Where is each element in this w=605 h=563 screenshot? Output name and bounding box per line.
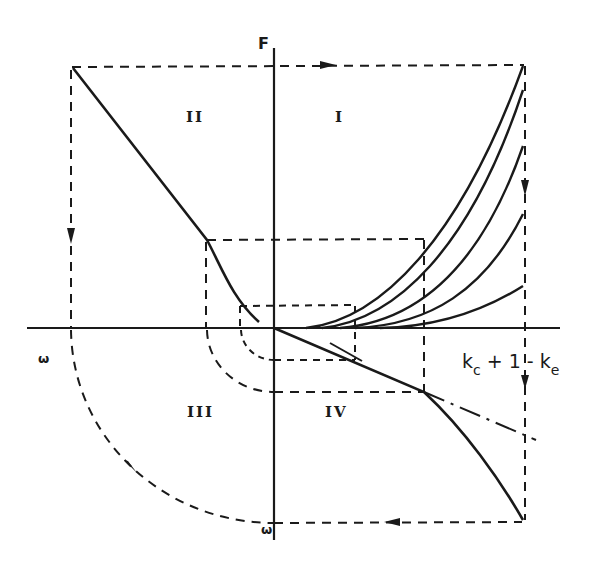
arrow-down-left-icon (67, 228, 75, 244)
k-c-symbol: k (462, 350, 473, 372)
middle-arc (207, 330, 274, 392)
outer-arc (71, 330, 274, 523)
arrow-down-right-lower-icon (521, 375, 529, 389)
quadrant-i-curves (306, 66, 523, 328)
four-quadrant-diagram (0, 0, 605, 563)
k-c-subscript: c (473, 362, 481, 378)
quadrant-iv-label: IV (325, 405, 348, 420)
construction-lines (71, 65, 525, 523)
transfer-arcs (71, 330, 274, 523)
small-upper-dashed-line (240, 305, 355, 306)
omega-bottom-label: ω (261, 523, 272, 536)
curve-4 (355, 214, 523, 328)
quadrant-ii-curve (73, 68, 259, 322)
plus-one-minus: + 1 - (481, 350, 540, 372)
mid-upper-dashed-line (207, 239, 424, 240)
arrow-left-bottom-icon (384, 518, 400, 526)
quadrant-i-label: I (335, 110, 344, 125)
arrow-right-top-icon (320, 61, 336, 69)
horizontal-axis-label: kc + 1 - ke (462, 352, 559, 371)
curve-1 (306, 66, 523, 328)
inner-arc (241, 330, 274, 360)
arrow-down-right-icon (521, 180, 529, 196)
curve-2 (322, 90, 523, 328)
vertical-axis-label: F (258, 36, 269, 52)
axes (27, 48, 560, 540)
quadrant-iv-dash-dot-line (424, 392, 536, 440)
k-e-subscript: e (551, 362, 560, 378)
quadrant-ii-label: II (186, 110, 204, 125)
omega-left-label: ω (38, 352, 49, 365)
top-dashed-line (72, 65, 524, 67)
quadrant-iii-label: III (187, 405, 214, 420)
k-e-symbol: k (540, 350, 551, 372)
